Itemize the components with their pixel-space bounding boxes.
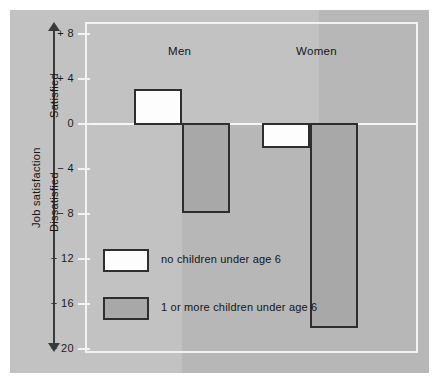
bar-women-with-children [310, 123, 358, 328]
bar-women-no-children [262, 123, 310, 148]
group-label-men: Men [168, 45, 191, 57]
y-tick-label--12: − 12 [30, 252, 74, 264]
arrow-down-icon [48, 343, 60, 352]
bar-men-with-children [182, 123, 230, 213]
y-tick-8 [78, 33, 90, 35]
legend-swatch-gray [103, 297, 149, 320]
y-tick--12 [78, 258, 90, 260]
y-tick--20 [78, 348, 90, 350]
legend-label-no-children: no children under age 6 [161, 253, 281, 265]
y-tick-4 [78, 78, 90, 80]
chart-figure: + 8 + 4 0 − 4 − 8 − 12 − 16 − 20 Satisfi… [0, 0, 448, 383]
axis-label-satisfied: Satisfied [48, 73, 60, 118]
axis-label-dissatisfied: Dissatisfied [48, 172, 60, 232]
arrow-up-icon [48, 22, 60, 31]
y-tick-label--16: − 16 [30, 297, 74, 309]
y-tick-0 [78, 123, 90, 125]
group-label-women: Women [296, 45, 337, 57]
y-tick--16 [78, 303, 90, 305]
y-tick-label-0: 0 [30, 117, 74, 129]
bar-men-no-children [134, 89, 182, 125]
y-tick--8 [78, 213, 90, 215]
legend-label-with-children: 1 or more children under age 6 [161, 301, 317, 313]
legend-swatch-white [103, 249, 149, 272]
axis-label-job-satisfaction: Job satisfaction [30, 147, 42, 228]
y-tick--4 [78, 168, 90, 170]
